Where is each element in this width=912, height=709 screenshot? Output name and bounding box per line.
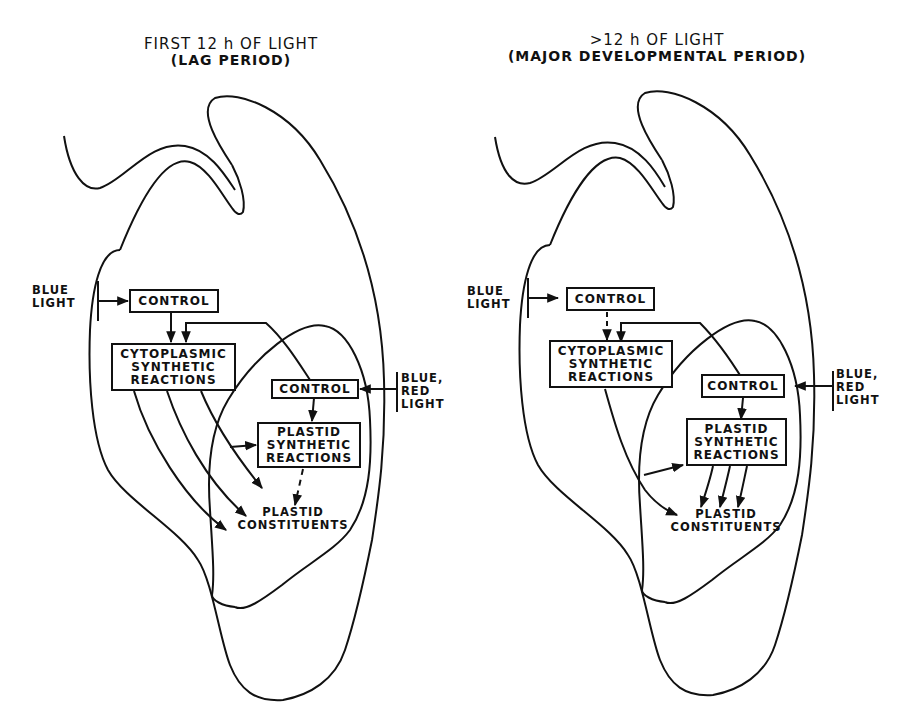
box-line: SYNTHETIC bbox=[694, 436, 778, 449]
label-line: LIGHT bbox=[836, 394, 880, 407]
label-line: BLUE bbox=[32, 284, 76, 297]
box-line: SYNTHETIC bbox=[131, 361, 215, 374]
label-line: BLUE bbox=[467, 285, 511, 298]
box-label: CONTROL bbox=[279, 383, 350, 396]
label-line: BLUE, bbox=[401, 372, 445, 385]
control-box-cytoplasmic: CONTROL bbox=[566, 287, 655, 311]
control-box-plastid: CONTROL bbox=[271, 379, 359, 399]
box-line: REACTIONS bbox=[266, 452, 352, 465]
box-line: SYNTHETIC bbox=[267, 439, 351, 452]
box-line: REACTIONS bbox=[693, 449, 779, 462]
panel-major-title: >12 h OF LIGHT (MAJOR DEVELOPMENTAL PERI… bbox=[487, 32, 827, 64]
label-line: CONSTITUENTS bbox=[228, 519, 358, 532]
plastid-constituents-label: PLASTID CONSTITUENTS bbox=[662, 508, 790, 534]
stem-curve bbox=[495, 137, 665, 187]
box-line: PLASTID bbox=[277, 426, 341, 439]
title-line-1: FIRST 12 h OF LIGHT bbox=[144, 35, 318, 53]
figure: FIRST 12 h OF LIGHT (LAG PERIOD) BLUE LI… bbox=[0, 0, 912, 709]
box-line: REACTIONS bbox=[568, 371, 654, 384]
label-line: PLASTID bbox=[662, 508, 790, 521]
blue-light-label: BLUE LIGHT bbox=[467, 285, 511, 311]
blue-light-label: BLUE LIGHT bbox=[32, 284, 76, 310]
label-line: RED bbox=[836, 381, 880, 394]
box-line: CYTOPLASMIC bbox=[120, 348, 226, 361]
label-line: PLASTID bbox=[228, 506, 358, 519]
control-box-plastid: CONTROL bbox=[701, 374, 785, 398]
label-line: LIGHT bbox=[32, 297, 76, 310]
box-line: REACTIONS bbox=[130, 374, 216, 387]
panel-lag-title: FIRST 12 h OF LIGHT (LAG PERIOD) bbox=[120, 36, 342, 68]
plastid-constituents-label: PLASTID CONSTITUENTS bbox=[228, 506, 358, 532]
box-line: SYNTHETIC bbox=[569, 358, 653, 371]
cytoplasmic-synthetic-reactions-box: CYTOPLASMIC SYNTHETIC REACTIONS bbox=[549, 340, 673, 388]
plastid-synthetic-reactions-box: PLASTID SYNTHETIC REACTIONS bbox=[686, 418, 787, 466]
label-line: LIGHT bbox=[401, 398, 445, 411]
box-line: PLASTID bbox=[705, 423, 769, 436]
box-label: CONTROL bbox=[707, 380, 778, 393]
label-line: CONSTITUENTS bbox=[662, 521, 790, 534]
blue-red-light-label: BLUE, RED LIGHT bbox=[401, 372, 445, 411]
title-line-1: >12 h OF LIGHT bbox=[590, 31, 725, 49]
box-label: CONTROL bbox=[575, 293, 646, 306]
box-line: CYTOPLASMIC bbox=[558, 345, 664, 358]
label-line: LIGHT bbox=[467, 298, 511, 311]
cytoplasmic-synthetic-reactions-box: CYTOPLASMIC SYNTHETIC REACTIONS bbox=[111, 343, 236, 391]
plastid-synthetic-reactions-box: PLASTID SYNTHETIC REACTIONS bbox=[257, 422, 361, 468]
control-box-cytoplasmic: CONTROL bbox=[129, 289, 219, 313]
box-label: CONTROL bbox=[138, 295, 209, 308]
title-line-2: (MAJOR DEVELOPMENTAL PERIOD) bbox=[487, 49, 827, 65]
title-line-2: (LAG PERIOD) bbox=[120, 53, 342, 69]
label-line: RED bbox=[401, 385, 445, 398]
blue-red-light-label: BLUE, RED LIGHT bbox=[836, 368, 880, 407]
label-line: BLUE, bbox=[836, 368, 880, 381]
stem-curve bbox=[64, 136, 235, 190]
